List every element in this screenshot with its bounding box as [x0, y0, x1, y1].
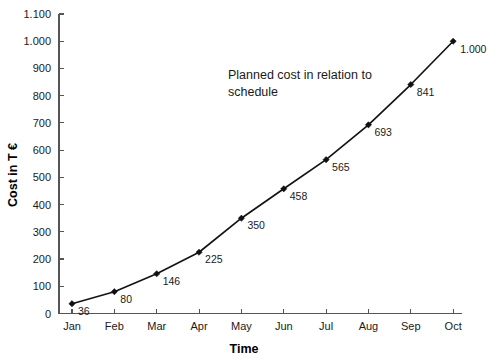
data-label-jul: 565 — [332, 161, 350, 173]
y-tick-label-400: 400 — [33, 199, 51, 211]
x-axis-title: Time — [230, 342, 259, 356]
data-label-may: 350 — [247, 219, 265, 231]
x-tick-label-may: May — [231, 320, 252, 332]
y-tick-label-800: 800 — [33, 90, 51, 102]
x-tick-label-aug: Aug — [359, 320, 379, 332]
x-tick-label-sep: Sep — [401, 320, 421, 332]
y-tick-label-100: 100 — [33, 280, 51, 292]
y-tick-label-600: 600 — [33, 144, 51, 156]
y-tick-label-300: 300 — [33, 226, 51, 238]
chart-background — [0, 0, 488, 362]
x-tick-label-jul: Jul — [319, 320, 333, 332]
y-tick-label-1.100: 1.100 — [23, 8, 51, 20]
x-tick-label-jun: Jun — [275, 320, 293, 332]
data-label-sep: 841 — [417, 86, 435, 98]
data-label-feb: 80 — [120, 293, 132, 305]
x-tick-label-mar: Mar — [147, 320, 166, 332]
data-label-aug: 693 — [374, 126, 392, 138]
y-tick-label-900: 900 — [33, 62, 51, 74]
x-tick-label-jan: Jan — [63, 320, 81, 332]
data-label-apr: 225 — [205, 253, 223, 265]
y-tick-label-500: 500 — [33, 171, 51, 183]
annotation-line-2: schedule — [228, 85, 278, 99]
chart-canvas: 01002003004005006007008009001.0001.100 J… — [0, 0, 488, 362]
y-tick-label-0: 0 — [45, 308, 51, 320]
data-label-jan: 36 — [78, 305, 90, 317]
line-chart: 01002003004005006007008009001.0001.100 J… — [0, 0, 488, 362]
data-label-mar: 146 — [163, 275, 181, 287]
y-tick-label-200: 200 — [33, 253, 51, 265]
y-tick-label-1.000: 1.000 — [23, 35, 51, 47]
x-tick-label-apr: Apr — [190, 320, 207, 332]
data-label-oct: 1.000 — [460, 43, 486, 55]
annotation-line-1: Planned cost in relation to — [228, 68, 372, 82]
y-tick-label-700: 700 — [33, 117, 51, 129]
data-label-jun: 458 — [290, 190, 308, 202]
x-tick-label-oct: Oct — [445, 320, 462, 332]
x-tick-label-feb: Feb — [105, 320, 124, 332]
y-axis-title: Cost in T € — [6, 143, 20, 207]
